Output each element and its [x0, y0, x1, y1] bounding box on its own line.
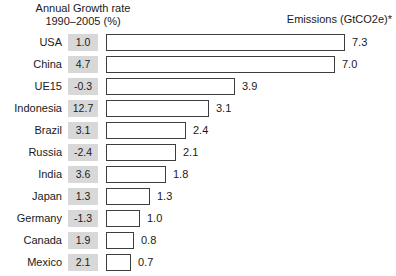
emissions-bar: [106, 34, 345, 51]
growth-value-box: -0.3: [68, 78, 98, 95]
emissions-bar: [106, 100, 209, 117]
emissions-bar: [106, 210, 140, 227]
bar-area: 1.8: [106, 166, 396, 183]
country-label: UE15: [0, 80, 62, 92]
chart-row: Mexico 2.1 0.7: [0, 251, 396, 273]
bar-area: 1.3: [106, 188, 396, 205]
emissions-growth-chart: Annual Growth rate 1990–2005 (%) Emissio…: [0, 0, 396, 276]
bar-area: 7.3: [106, 34, 396, 51]
emissions-value-label: 7.3: [352, 36, 367, 48]
growth-value-box: 12.7: [68, 100, 98, 117]
country-label: Canada: [0, 234, 62, 246]
growth-value-box: 1.3: [68, 188, 98, 205]
chart-rows: USA 1.0 7.3 China 4.7 7.0 UE15 -0.3 3.9 …: [0, 31, 396, 273]
country-label: Mexico: [0, 256, 62, 268]
growth-value-box: 1.0: [68, 34, 98, 51]
country-label: Brazil: [0, 124, 62, 136]
bar-area: 3.1: [106, 100, 396, 117]
bar-area: 7.0: [106, 56, 396, 73]
country-label: China: [0, 58, 62, 70]
emissions-bar: [106, 56, 335, 73]
country-label: Japan: [0, 190, 62, 202]
country-label: Russia: [0, 146, 62, 158]
growth-value-box: 1.9: [68, 232, 98, 249]
growth-value-box: -1.3: [68, 210, 98, 227]
growth-value-box: 3.1: [68, 122, 98, 139]
bar-area: 3.9: [106, 78, 396, 95]
emissions-value-label: 0.8: [141, 234, 156, 246]
emissions-bar: [106, 122, 186, 139]
emissions-value-label: 2.1: [183, 146, 198, 158]
bar-area: 2.1: [106, 144, 396, 161]
bar-area: 0.7: [106, 254, 396, 271]
growth-value-box: 4.7: [68, 56, 98, 73]
chart-row: Brazil 3.1 2.4: [0, 119, 396, 141]
emissions-value-label: 1.0: [147, 212, 162, 224]
chart-row: China 4.7 7.0: [0, 53, 396, 75]
growth-value-box: 2.1: [68, 254, 98, 271]
country-label: India: [0, 168, 62, 180]
growth-axis-title-line1: Annual Growth rate: [0, 2, 166, 15]
bar-area: 1.0: [106, 210, 396, 227]
emissions-bar: [106, 188, 150, 205]
country-label: Indonesia: [0, 102, 62, 114]
country-label: Germany: [0, 212, 62, 224]
emissions-value-label: 0.7: [138, 256, 153, 268]
chart-row: Canada 1.9 0.8: [0, 229, 396, 251]
growth-value-box: -2.4: [68, 144, 98, 161]
emissions-bar: [106, 232, 134, 249]
emissions-value-label: 7.0: [342, 58, 357, 70]
emissions-value-label: 2.4: [193, 124, 208, 136]
chart-row: India 3.6 1.8: [0, 163, 396, 185]
bar-area: 0.8: [106, 232, 396, 249]
emissions-bar: [106, 78, 235, 95]
chart-row: Indonesia 12.7 3.1: [0, 97, 396, 119]
chart-row: Japan 1.3 1.3: [0, 185, 396, 207]
growth-value-box: 3.6: [68, 166, 98, 183]
emissions-bar: [106, 166, 166, 183]
growth-axis-title: Annual Growth rate 1990–2005 (%): [0, 2, 166, 28]
growth-axis-title-line2: 1990–2005 (%): [0, 15, 166, 28]
emissions-bar: [106, 144, 176, 161]
chart-row: USA 1.0 7.3: [0, 31, 396, 53]
emissions-axis-title: Emissions (GtCO2e)*: [287, 13, 392, 25]
chart-row: UE15 -0.3 3.9: [0, 75, 396, 97]
chart-row: Germany -1.3 1.0: [0, 207, 396, 229]
country-label: USA: [0, 36, 62, 48]
emissions-value-label: 3.1: [216, 102, 231, 114]
bar-area: 2.4: [106, 122, 396, 139]
emissions-value-label: 1.3: [157, 190, 172, 202]
emissions-bar: [106, 254, 131, 271]
emissions-value-label: 1.8: [173, 168, 188, 180]
chart-row: Russia -2.4 2.1: [0, 141, 396, 163]
emissions-value-label: 3.9: [242, 80, 257, 92]
